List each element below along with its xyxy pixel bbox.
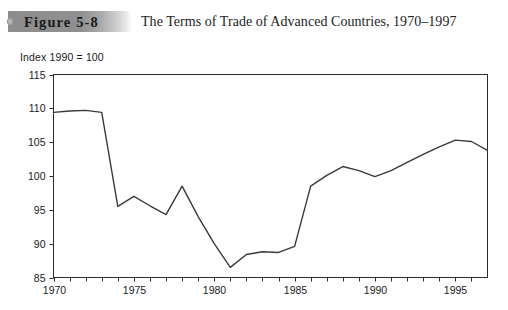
data-series-line	[54, 110, 488, 267]
y-axis-tick-label: 110	[29, 102, 46, 114]
terms-of-trade-line-chart: 859095100105110115 197019751980198519901…	[0, 0, 508, 310]
x-axis-tick-label: 1990	[364, 284, 388, 296]
y-axis-tick-label: 95	[34, 204, 46, 216]
y-axis-tick-label: 100	[28, 170, 46, 182]
x-axis-tick-label: 1985	[284, 284, 308, 296]
x-axis-tick-label: 1975	[123, 284, 147, 296]
y-axis-tick-label: 105	[28, 136, 46, 148]
x-axis-ticks	[55, 278, 472, 282]
x-axis-tick-label: 1995	[444, 284, 468, 296]
y-axis-tick-label: 85	[34, 272, 46, 284]
x-axis-tick-label: 1980	[203, 284, 227, 296]
y-axis-tick-label: 90	[34, 238, 46, 250]
y-axis-tick-labels: 859095100105110115	[28, 69, 46, 284]
y-axis-ticks	[50, 76, 54, 279]
x-axis-tick-label: 1970	[43, 284, 67, 296]
y-axis-tick-label: 115	[29, 69, 46, 81]
x-axis-tick-labels: 197019751980198519901995	[43, 284, 468, 296]
chart-area: 859095100105110115 197019751980198519901…	[0, 0, 508, 310]
plot-frame	[54, 75, 488, 278]
